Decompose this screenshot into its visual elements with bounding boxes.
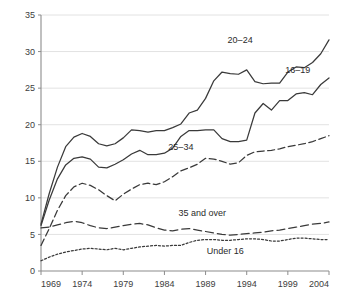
gridlines xyxy=(41,15,329,234)
y-axis: 05101520253035 xyxy=(25,10,41,276)
series-line-35-and-over xyxy=(41,221,329,235)
series-label-35-and-over: 35 and over xyxy=(179,208,227,218)
x-tick-label: 1984 xyxy=(154,279,174,289)
y-tick-label: 15 xyxy=(25,156,35,166)
y-tick-label: 30 xyxy=(25,47,35,57)
series-label-16-19: 16–19 xyxy=(285,65,310,75)
series-labels: 20–2416–1925–3435 and overUnder 16 xyxy=(168,35,310,256)
x-tick-label: 1999 xyxy=(278,279,298,289)
chart-container: 05101520253035 1969197419791984198919941… xyxy=(0,0,342,301)
series-label-25-34: 25–34 xyxy=(168,142,193,152)
series-label-20-24: 20–24 xyxy=(228,35,253,45)
series-line-under-16 xyxy=(41,238,329,261)
line-chart: 05101520253035 1969197419791984198919941… xyxy=(0,0,342,301)
series-label-under-16: Under 16 xyxy=(207,246,244,256)
y-tick-label: 5 xyxy=(30,230,35,240)
x-tick-label: 1994 xyxy=(237,279,257,289)
x-tick-label: 1969 xyxy=(41,279,61,289)
y-tick-label: 0 xyxy=(30,266,35,276)
x-tick-label: 1974 xyxy=(72,279,92,289)
x-axis: 19691974197919841989199419992004 xyxy=(41,271,329,289)
x-tick-label: 2004 xyxy=(309,279,329,289)
x-tick-label: 1989 xyxy=(196,279,216,289)
y-tick-label: 10 xyxy=(25,193,35,203)
y-tick-label: 25 xyxy=(25,83,35,93)
x-tick-label: 1979 xyxy=(113,279,133,289)
y-tick-label: 35 xyxy=(25,10,35,20)
y-tick-label: 20 xyxy=(25,120,35,130)
